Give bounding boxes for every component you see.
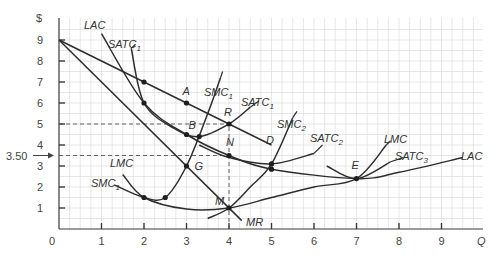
curve-label: LAC [84, 19, 105, 31]
y-axis-label: $ [36, 12, 42, 24]
point-label: M [215, 195, 225, 207]
point [197, 134, 202, 139]
point-label: A [182, 85, 190, 97]
curve-label: MR [246, 216, 263, 228]
point [269, 161, 274, 166]
point-label: G [195, 160, 204, 172]
curve-label: SATC3 [395, 150, 429, 165]
curve-label: D [266, 134, 274, 146]
x-tick-label: 1 [99, 235, 105, 247]
y-tick-label: 1 [37, 202, 43, 214]
x-tick-label: 4 [226, 235, 232, 247]
point-label: B [189, 119, 196, 131]
y-tick-label: 2 [37, 181, 43, 193]
point-label: E [352, 159, 360, 171]
curve-satc2 [199, 145, 314, 164]
curve-mr [59, 40, 242, 221]
cost-curves-chart: 123456789123456789 $ Q 0 3.50 ABRNGME LA… [0, 0, 498, 258]
label-leader [221, 72, 223, 78]
x-axis-label: Q [477, 235, 486, 247]
point [163, 195, 168, 200]
arrow-icon [33, 153, 54, 159]
x-tick-label: 3 [184, 235, 190, 247]
point [141, 195, 146, 200]
y-tick-label: 4 [37, 139, 43, 151]
y-tick-label: 8 [37, 55, 43, 67]
point-m [226, 205, 231, 210]
origin-label: 0 [49, 235, 55, 247]
curve-label: LMC [110, 157, 133, 169]
curve-label: LAC [461, 150, 482, 162]
y-tick-label: 7 [37, 76, 43, 88]
label-leader [293, 111, 297, 117]
x-tick-label: 9 [439, 235, 445, 247]
y-tick-label: 9 [37, 34, 43, 46]
axes: 123456789123456789 $ Q 0 3.50 [6, 12, 486, 247]
label-leader [314, 145, 323, 153]
x-tick-label: 6 [311, 235, 317, 247]
point-g [184, 163, 189, 168]
y-tick-label: 5 [37, 118, 43, 130]
x-tick-label: 7 [354, 235, 360, 247]
point-r [226, 121, 231, 126]
x-tick-label: 2 [141, 235, 147, 247]
point [141, 100, 146, 105]
x-tick-label: 8 [396, 235, 402, 247]
curve-label: SATC1 [241, 96, 274, 111]
y-tick-label: 3 [37, 160, 43, 172]
point-n [226, 153, 231, 158]
x-tick-label: 5 [269, 235, 275, 247]
curve-label: SMC2 [277, 118, 306, 133]
curve-label: SMC1 [91, 177, 120, 192]
y-annotation-350: 3.50 [6, 150, 27, 162]
point [269, 167, 274, 172]
point-a [184, 100, 189, 105]
point-label: R [224, 106, 232, 118]
point-e [354, 176, 359, 181]
y-tick-label: 6 [37, 97, 43, 109]
point-b [184, 132, 189, 137]
point-label: N [226, 136, 234, 148]
point [141, 79, 146, 84]
